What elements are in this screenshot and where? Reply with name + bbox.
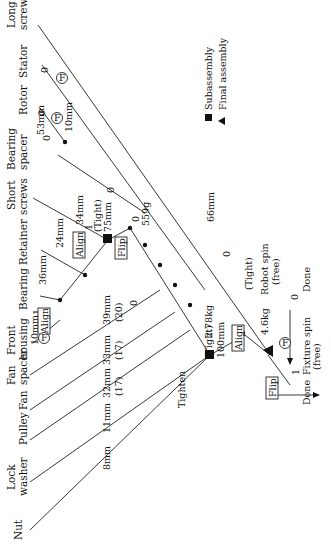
label-lock-washer-2: washer (17, 456, 29, 496)
assembly-sequence-diagram: Nut Lock washer Pulley Fan Fan spacer Fr… (0, 0, 331, 545)
svg-text:36mm: 36mm (37, 255, 48, 285)
label-short-screws-1: Short (5, 180, 17, 210)
legend-square-icon (205, 114, 212, 121)
svg-text:1: 1 (290, 369, 301, 375)
svg-text:Tighten: Tighten (176, 371, 187, 408)
label-stator: Stator (17, 44, 29, 78)
legend: Subassembly Final assembly (203, 37, 228, 125)
align-box-1: Align (39, 308, 50, 334)
label-fan-spacer-1: Fan (5, 365, 17, 385)
flip-box-2: Flip (267, 378, 278, 397)
flip-box-1: Flip (116, 238, 127, 257)
label-nut: Nut (12, 519, 24, 540)
svg-text:(17): (17) (113, 376, 124, 396)
label-bearing-spacer-2: spacer (17, 134, 29, 170)
svg-text:0: 0 (36, 110, 47, 116)
svg-text:(Tight): (Tight) (243, 257, 254, 290)
svg-text:11mm: 11mm (101, 403, 112, 433)
svg-text:39mm: 39mm (101, 295, 112, 325)
legend-triangle-icon (218, 117, 225, 125)
svg-text:100mm: 100mm (215, 322, 226, 358)
svg-text:53mm: 53mm (35, 105, 46, 135)
svg-text:66mm: 66mm (205, 192, 216, 222)
svg-text:34mm: 34mm (74, 195, 85, 225)
label-bearing: Bearing (17, 268, 29, 310)
svg-text:10mm: 10mm (63, 102, 74, 132)
svg-text:4.6kg: 4.6kg (259, 308, 270, 335)
label-retainer: Retainer (17, 218, 29, 265)
svg-text:24mm: 24mm (54, 218, 65, 248)
svg-text:8mm: 8mm (101, 446, 112, 470)
svg-text:F: F (59, 72, 66, 83)
svg-text:0: 0 (289, 294, 300, 300)
label-front-housing-2: housing (17, 318, 29, 360)
svg-text:0: 0 (128, 300, 139, 306)
label-lock-washer-1: Lock (5, 464, 17, 490)
svg-text:F: F (282, 337, 289, 348)
label-bearing-spacer-1: Bearing (5, 128, 17, 170)
svg-text:(free): (free) (311, 343, 322, 370)
junction-dots (58, 140, 245, 335)
align-box-2: Align (74, 232, 85, 258)
svg-text:0: 0 (105, 187, 116, 193)
diagram-canvas: Nut Lock washer Pulley Fan Fan spacer Fr… (0, 0, 331, 545)
label-long-screws-2: screws (17, 0, 29, 30)
label-long-screws-1: Long (5, 1, 17, 28)
svg-text:F: F (41, 332, 48, 343)
svg-text:33mm: 33mm (101, 335, 112, 365)
svg-text:75mm: 75mm (102, 202, 113, 232)
legend-final-assembly: Final assembly (217, 37, 228, 110)
label-fan: Fan (17, 390, 29, 410)
svg-text:32mm: 32mm (101, 368, 112, 398)
svg-text:(20): (20) (113, 302, 124, 322)
part-labels: Nut Lock washer Pulley Fan Fan spacer Fr… (5, 0, 29, 540)
label-front-housing-1: Front (5, 325, 17, 355)
legend-subassembly: Subassembly (203, 46, 214, 110)
svg-text:0: 0 (221, 251, 232, 257)
svg-text:F: F (54, 112, 61, 123)
svg-text:Done: Done (301, 380, 312, 405)
label-rotor: Rotor (17, 84, 29, 115)
svg-text:Robot spin: Robot spin (259, 243, 270, 295)
label-short-screws-2: screws (17, 178, 29, 215)
svg-text:(17): (17) (113, 340, 124, 360)
svg-text:0: 0 (39, 67, 50, 73)
subassembly-marker (103, 234, 112, 243)
svg-text:2.78kg: 2.78kg (203, 305, 214, 338)
svg-text:Done: Done (301, 267, 312, 292)
align-box-3: Align (233, 325, 244, 351)
svg-text:(free): (free) (270, 258, 281, 285)
svg-text:559g: 559g (140, 202, 151, 226)
label-pulley: Pulley (17, 412, 29, 445)
